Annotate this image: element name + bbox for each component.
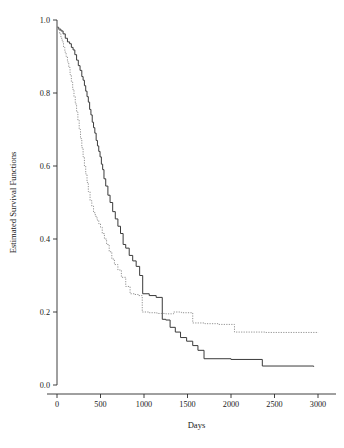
y-tick-label: 0.8 xyxy=(40,89,50,98)
solid-survival-curve xyxy=(57,27,314,366)
y-tick-label: 0.2 xyxy=(40,308,50,317)
x-tick-label: 1000 xyxy=(136,400,152,409)
x-tick-label: 2000 xyxy=(223,400,239,409)
chart-series-group xyxy=(57,27,318,366)
x-tick-label: 500 xyxy=(94,400,106,409)
x-axis-ticks: 050010001500200025003000 xyxy=(55,394,326,409)
x-axis-title: Days xyxy=(188,420,206,430)
y-axis-title: Estimated Survival Functions xyxy=(8,151,18,253)
y-tick-label: 0.4 xyxy=(40,235,50,244)
survival-chart-svg: 0.00.20.40.60.81.0 050010001500200025003… xyxy=(0,0,344,448)
chart-axes: 0.00.20.40.60.81.0 050010001500200025003… xyxy=(40,16,336,409)
y-tick-label: 0.0 xyxy=(40,381,50,390)
x-tick-label: 0 xyxy=(55,400,59,409)
x-tick-label: 1500 xyxy=(179,400,195,409)
y-tick-label: 0.6 xyxy=(40,162,50,171)
survival-plot-figure: 0.00.20.40.60.81.0 050010001500200025003… xyxy=(0,0,344,448)
dotted-survival-curve xyxy=(57,27,318,333)
x-tick-label: 2500 xyxy=(266,400,282,409)
x-tick-label: 3000 xyxy=(310,400,326,409)
chart-axis-titles: Days Estimated Survival Functions xyxy=(8,151,206,430)
y-tick-label: 1.0 xyxy=(40,16,50,25)
y-axis-ticks: 0.00.20.40.60.81.0 xyxy=(40,16,57,390)
